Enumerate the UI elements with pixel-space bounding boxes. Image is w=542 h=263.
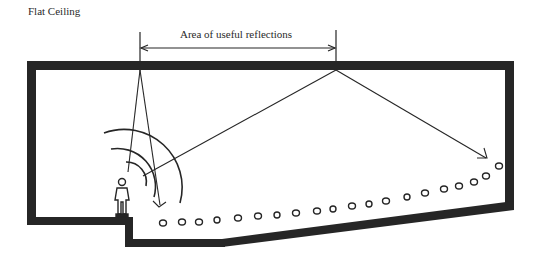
room-section [27,61,514,247]
flat-ceiling-diagram [0,0,542,263]
dimension-line [140,30,336,62]
speaker-figure [115,179,129,218]
